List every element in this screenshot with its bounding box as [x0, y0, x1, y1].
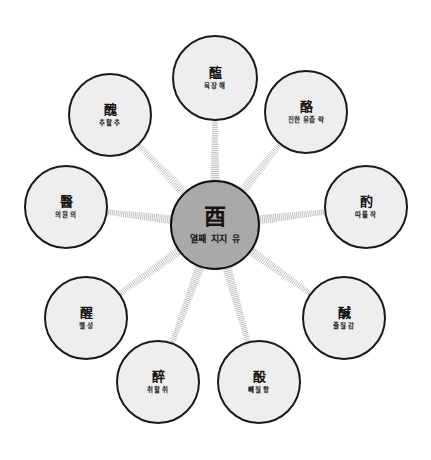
- spoke-node-gam: [248, 247, 312, 296]
- node-hae[interactable]: 醢육장 해: [172, 35, 258, 121]
- node-gam-hanja: 醎: [338, 306, 351, 319]
- node-ui-gloss: 의원 의: [55, 212, 76, 219]
- node-hang[interactable]: 酘빼질 항: [217, 340, 301, 424]
- spoke-node-seong: [118, 247, 182, 296]
- node-hae-gloss: 육장 해: [204, 83, 225, 90]
- spoke-node-ui: [106, 209, 171, 224]
- node-chwi-gloss: 취할 취: [147, 387, 168, 394]
- spoke-node-jak: [258, 209, 325, 224]
- node-hang-hanja: 酘: [253, 370, 266, 383]
- node-hae-hanja: 醢: [209, 66, 222, 79]
- node-chu-gloss: 추할 추: [99, 120, 120, 127]
- node-jak-hanja: 酌: [360, 195, 373, 208]
- node-seong-gloss: 깰 성: [79, 323, 94, 330]
- node-chu[interactable]: 醜추할 추: [68, 73, 152, 157]
- node-jak-gloss: 따를 작: [355, 212, 376, 219]
- spoke-node-hae: [210, 120, 219, 181]
- node-ui-hanja: 醫: [60, 195, 73, 208]
- node-gam-gloss: 줄질 감: [333, 323, 354, 330]
- node-rak-hanja: 酪: [300, 100, 313, 113]
- node-hang-gloss: 빼질 항: [248, 387, 269, 394]
- node-chwi-hanja: 醉: [152, 370, 165, 383]
- node-chu-hanja: 醜: [104, 103, 117, 116]
- node-seong-hanja: 醒: [80, 306, 93, 319]
- center-gloss: 열째 지지 유: [190, 235, 240, 244]
- spoke-node-chu: [136, 143, 188, 196]
- center-node[interactable]: 酉열째 지지 유: [170, 180, 260, 270]
- node-gam[interactable]: 醎줄질 감: [302, 276, 386, 360]
- node-rak-gloss: 진한 유즙 락: [288, 117, 324, 124]
- spoke-node-chwi: [170, 265, 205, 345]
- spoke-node-hang: [222, 266, 250, 343]
- node-rak[interactable]: 酪진한 유즙 락: [264, 70, 348, 154]
- center-hanja: 酉: [204, 206, 226, 228]
- spoke-node-rak: [239, 142, 282, 193]
- node-seong[interactable]: 醒깰 성: [44, 276, 128, 360]
- node-chwi[interactable]: 醉취할 취: [116, 340, 200, 424]
- radial-character-diagram: 醢육장 해酪진한 유즙 락酌따를 작醎줄질 감酘빼질 항醉취할 취醒깰 성醫의원…: [0, 0, 431, 460]
- node-ui[interactable]: 醫의원 의: [24, 165, 108, 249]
- node-jak[interactable]: 酌따를 작: [324, 165, 408, 249]
